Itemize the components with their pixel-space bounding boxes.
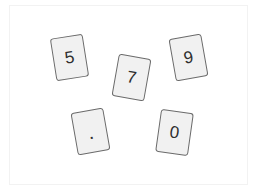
card-label: . [87,126,93,140]
card-label: 5 [63,48,75,66]
card-label: 0 [168,123,180,141]
card-label: 7 [125,68,137,86]
card-9[interactable]: 9 [168,33,208,81]
card-5[interactable]: 5 [49,33,88,81]
card-0[interactable]: 0 [155,108,194,155]
card-decimal-point[interactable]: . [70,107,110,155]
card-label: 9 [182,48,194,66]
card-7[interactable]: 7 [111,53,151,101]
